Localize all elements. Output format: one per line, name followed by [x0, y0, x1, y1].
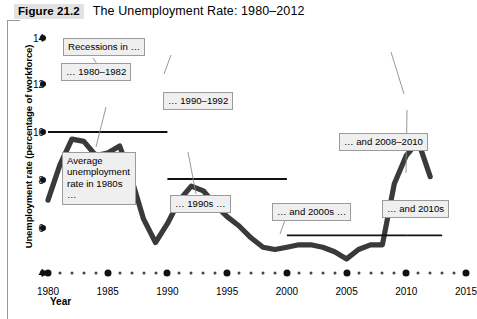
leader-avg-1980s	[96, 107, 106, 147]
y-tick-dot-12	[40, 81, 46, 87]
figure-header: Figure 21.2 The Unemployment Rate: 1980–…	[14, 4, 305, 19]
figure-number: Figure 21.2	[14, 4, 84, 19]
y-tick-dot-6	[40, 225, 46, 231]
y-tick-dot-14	[40, 35, 46, 41]
y-tick-dot-10	[40, 129, 46, 135]
callout-average-1980s: Average unemployment rate in 1980s …	[62, 152, 136, 205]
callout-average-2010s: … and 2010s	[382, 200, 449, 218]
figure-title: The Unemployment Rate: 1980–2012	[93, 4, 305, 18]
figure-border-vertical	[7, 20, 8, 319]
leader-1990-1992	[164, 55, 171, 74]
y-tick-dot-8	[40, 177, 46, 183]
x-tick-label: 2005	[335, 286, 357, 297]
callout-average-2000s: … and 2000s …	[272, 203, 351, 221]
callout-recession-2008-2010: … and 2008–2010	[339, 133, 428, 151]
leader-2008-2010	[391, 52, 404, 94]
figure-border-horizontal	[7, 20, 20, 21]
callout-average-1990s: … 1990s …	[170, 195, 231, 213]
x-tick-label: 2010	[395, 286, 417, 297]
callout-recession-1980-1982: … 1980–1982	[61, 63, 131, 81]
x-axis-title: Year	[50, 296, 71, 307]
callout-recessions: Recessions in …	[63, 38, 145, 56]
y-axis-title: Unemployment rate (percentage of workfor…	[23, 22, 34, 272]
x-tick-label: 2015	[455, 286, 477, 297]
callout-recession-1990-1992: … 1990–1992	[163, 92, 233, 110]
x-tick-label: 1990	[156, 286, 178, 297]
x-tick-label: 2000	[276, 286, 298, 297]
x-tick-label: 1995	[216, 286, 238, 297]
x-tick-label: 1985	[97, 286, 119, 297]
